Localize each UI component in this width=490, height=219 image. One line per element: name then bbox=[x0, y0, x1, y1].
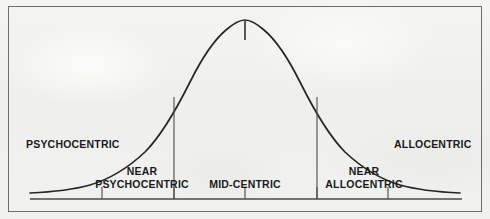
segment-label-near-allocentric: NEAR ALLOCENTRIC bbox=[316, 165, 412, 190]
segment-label-psychocentric: PSYCHOCENTRIC bbox=[26, 138, 120, 151]
segment-label-mid-centric: MID-CENTRIC bbox=[207, 178, 283, 191]
segment-label-near-psychocentric-line2: PSYCHOCENTRIC bbox=[94, 178, 190, 191]
segment-label-near-allocentric-line1: NEAR bbox=[316, 165, 412, 178]
segment-label-near-psychocentric: NEAR PSYCHOCENTRIC bbox=[94, 165, 190, 190]
figure-canvas: PSYCHOCENTRIC NEAR PSYCHOCENTRIC MID-CEN… bbox=[0, 0, 490, 219]
segment-label-near-allocentric-line2: ALLOCENTRIC bbox=[316, 178, 412, 191]
segment-label-near-psychocentric-line1: NEAR bbox=[94, 165, 190, 178]
segment-label-allocentric: ALLOCENTRIC bbox=[394, 138, 471, 151]
